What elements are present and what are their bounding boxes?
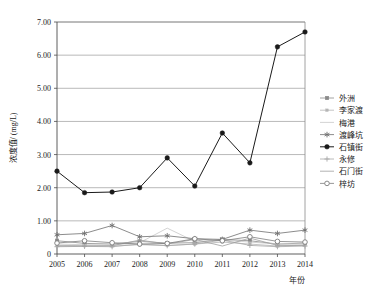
series-3 (55, 223, 308, 243)
line-chart: 01.002.003.004.005.006.007.00浓度值/ (mg/L)… (0, 0, 388, 291)
series-7-point-1 (82, 238, 87, 243)
legend-item-1[interactable]: 李家渡 (320, 105, 363, 115)
legend-label-7: 梓坊 (339, 179, 355, 189)
series-7-point-3 (137, 242, 142, 247)
series-line-3 (57, 225, 305, 239)
x-tick-label-2011: 2011 (214, 260, 230, 269)
x-tick-label-2006: 2006 (77, 260, 93, 269)
series-4 (55, 30, 308, 195)
axes (57, 22, 305, 254)
series-7-point-9 (303, 240, 308, 245)
legend-item-4[interactable]: 石镇街 (320, 142, 363, 152)
legend-marker-1 (326, 109, 329, 112)
legend-item-2[interactable]: 梅港 (320, 118, 355, 128)
legend-label-4: 石镇街 (339, 142, 363, 152)
y-tick-label-0: 0 (47, 250, 51, 259)
legend-item-3[interactable]: 渡峰坑 (320, 130, 363, 140)
legend-label-2: 梅港 (339, 118, 355, 128)
y-tick-label-2: 2.00 (37, 184, 51, 193)
legend-label-5: 永修 (339, 154, 355, 164)
legend-label-1: 李家渡 (339, 105, 363, 115)
x-tick-label-2014: 2014 (297, 260, 313, 269)
legend-item-5[interactable]: 永修 (320, 154, 355, 164)
series-3-point-2 (110, 223, 115, 229)
series-group (54, 30, 307, 250)
series-4-point-2 (110, 190, 115, 195)
y-tick-label-6: 6.00 (37, 51, 51, 60)
series-line-4 (57, 32, 305, 193)
series-4-point-4 (165, 156, 170, 161)
series-4-point-0 (55, 169, 60, 174)
series-4-point-8 (275, 45, 280, 50)
legend-marker-5 (324, 156, 329, 161)
y-tick-label-7: 7.00 (37, 18, 51, 27)
y-tick-label-5: 5.00 (37, 84, 51, 93)
legend-item-0[interactable]: 外洲 (320, 93, 355, 103)
x-axis-title: 年份 (289, 275, 305, 285)
x-tick-label-2010: 2010 (187, 260, 203, 269)
legend-marker-7 (325, 181, 330, 186)
x-tick-label-2005: 2005 (49, 260, 65, 269)
chart-canvas: 01.002.003.004.005.006.007.00浓度值/ (mg/L)… (0, 0, 388, 291)
series-7-point-2 (110, 240, 115, 245)
y-tick-label-3: 3.00 (37, 151, 51, 160)
x-axis: 2005200620072008200920102011201220132014 (49, 254, 313, 269)
legend-label-3: 渡峰坑 (339, 130, 363, 140)
y-tick-label-1: 1.00 (37, 217, 51, 226)
legend-item-7[interactable]: 梓坊 (320, 179, 355, 189)
series-7-point-0 (55, 241, 60, 246)
series-4-point-6 (220, 131, 225, 136)
gridlines (57, 22, 305, 221)
legend-label-0: 外洲 (339, 93, 355, 103)
y-axis: 01.002.003.004.005.006.007.00 (37, 18, 57, 259)
series-4-point-1 (82, 190, 87, 195)
x-tick-label-2013: 2013 (269, 260, 285, 269)
series-7-point-7 (248, 234, 253, 239)
series-7-point-4 (165, 241, 170, 246)
x-tick-label-2008: 2008 (132, 260, 148, 269)
legend: 外洲李家渡梅港渡峰坑石镇街永修石门街梓坊 (320, 93, 363, 188)
x-tick-label-2007: 2007 (104, 260, 120, 269)
legend-item-6[interactable]: 石门街 (320, 166, 363, 176)
legend-marker-0 (325, 96, 329, 100)
series-4-point-5 (192, 184, 197, 189)
legend-label-6: 石门街 (339, 166, 363, 176)
y-axis-title: 浓度值/ (mg/L) (8, 112, 18, 163)
series-4-point-7 (248, 161, 253, 166)
plot-frame (57, 22, 305, 254)
series-4-point-9 (303, 30, 308, 35)
series-4-point-3 (137, 185, 142, 190)
x-tick-label-2009: 2009 (159, 260, 175, 269)
series-7-point-5 (192, 236, 197, 241)
y-tick-label-4: 4.00 (37, 117, 51, 126)
series-7-point-8 (275, 239, 280, 244)
legend-marker-4 (325, 145, 330, 150)
series-7-point-6 (220, 238, 225, 243)
x-tick-label-2012: 2012 (242, 260, 258, 269)
